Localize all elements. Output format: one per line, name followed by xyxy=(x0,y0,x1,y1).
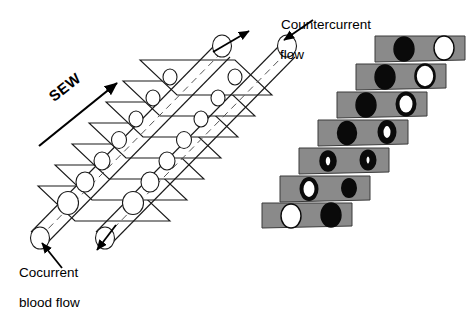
gradient-bar xyxy=(262,203,352,228)
capillary-circle-right xyxy=(363,153,373,167)
label-cocurrent-line2: blood flow xyxy=(19,295,80,310)
label-cocurrent-line1: Cocurrent xyxy=(19,265,78,280)
capillary-circle-left xyxy=(338,122,357,145)
capillary-circle-right xyxy=(398,94,415,115)
capillary-circle-right xyxy=(416,65,435,88)
gradient-bar xyxy=(337,92,427,118)
gradient-bar xyxy=(299,148,389,174)
capillary-circle-right xyxy=(345,182,353,194)
capillary-circle-right xyxy=(321,203,341,227)
capillary-circle-right xyxy=(381,123,394,141)
capillary-circle-left xyxy=(302,179,317,199)
gradient-bar xyxy=(375,36,465,62)
tube-end-bottom-left xyxy=(31,227,50,249)
capillary-circle-left xyxy=(356,93,376,117)
capillary-circle-left xyxy=(394,37,414,61)
label-countercurrent-line2: flow xyxy=(266,47,371,62)
capillary-circle-left xyxy=(281,204,301,228)
label-cocurrent-blood-flow: Cocurrent blood flow xyxy=(4,250,80,311)
label-countercurrent-line1: Countercurrent xyxy=(281,17,371,32)
capillary-circle-right xyxy=(434,36,454,60)
gradient-bar xyxy=(318,120,408,146)
capillary-circle-left xyxy=(375,65,395,89)
label-countercurrent-flow: Countercurrent flow xyxy=(266,2,371,92)
gradient-bar xyxy=(280,176,370,202)
capillary-circle-left xyxy=(323,154,334,169)
